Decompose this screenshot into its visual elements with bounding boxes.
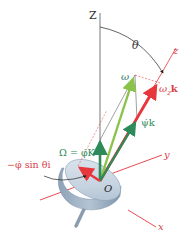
origin-label: O [104,184,112,194]
omega-projection-dash [135,75,160,83]
psi-dot-k-label: ψ̇k [141,118,155,128]
omega-label: ω [121,72,129,82]
parallelogram-right [135,75,137,120]
x-axis-label: x [158,222,164,232]
omega-z-k-label: ωzk [159,84,178,97]
phi-sin-theta-i-label: −φ̇ sin θi [7,160,50,170]
theta-label: θ [132,40,139,51]
Omega-label: Ω = φ̇K [59,148,95,158]
y-axis-label: y [164,150,170,160]
psi-dot-k-vector [100,123,135,181]
omega-vector [100,79,133,181]
x-axis-line [128,210,156,227]
euler-disk-diagram [0,0,193,236]
diagram-canvas: Z θ z ω ωzk ψ̇k Ω = φ̇K −φ̇ sin θi y O x [0,0,193,236]
omega-z-k-symbol: ω [159,83,167,94]
z-axis-label: z [173,46,178,56]
omega-z-k-unit: k [171,83,178,94]
Z-axis-label: Z [89,10,97,21]
